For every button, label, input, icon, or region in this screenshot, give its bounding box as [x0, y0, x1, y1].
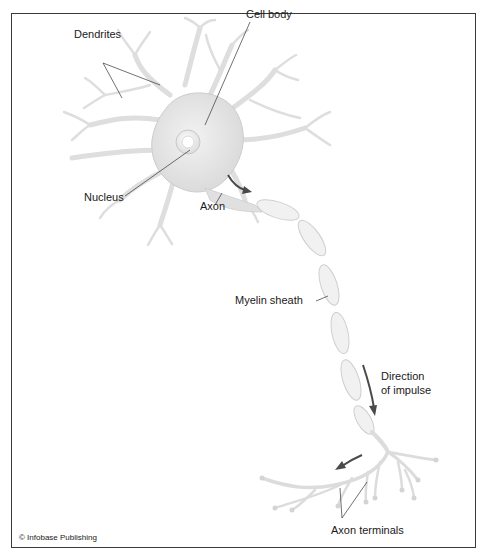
impulse-arrows: [228, 175, 377, 470]
label-direction-line2: of impulse: [381, 384, 431, 397]
label-myelin-sheath: Myelin sheath: [235, 294, 303, 307]
label-direction-line1: Direction: [381, 370, 424, 383]
neuron-illustration: [0, 0, 485, 557]
label-nucleus: Nucleus: [84, 191, 124, 204]
axon-terminals: [262, 432, 436, 510]
copyright-credit: © Infobase Publishing: [19, 533, 97, 542]
label-axon-terminals: Axon terminals: [331, 524, 404, 537]
label-axon: Axon: [200, 200, 225, 213]
myelin-sheath: [255, 196, 378, 438]
label-dendrites: Dendrites: [74, 28, 121, 41]
label-cell-body: Cell body: [246, 8, 292, 21]
